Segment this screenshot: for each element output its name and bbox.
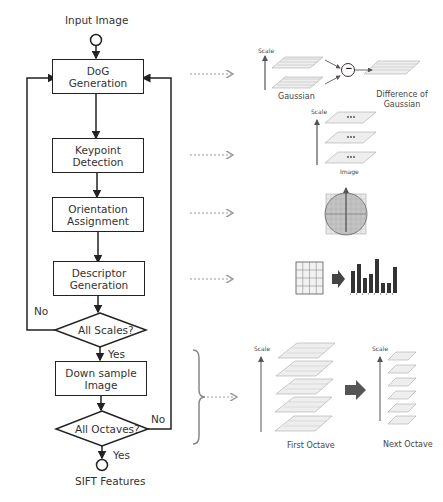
decision-all-octaves: All Octaves?	[75, 423, 140, 435]
step-down-sample-image: Down sample Image	[55, 361, 147, 396]
step-dog-generation: DoG Generation	[52, 59, 144, 94]
first-octave-scale-label: Scale	[254, 345, 270, 352]
gaussian-label: Gaussian	[278, 92, 315, 101]
step-line1: Keypoint	[75, 144, 121, 156]
step-line1: DoG	[87, 65, 110, 77]
end-label: SIFT Features	[75, 475, 146, 487]
decision-all-scales-no: No	[34, 305, 48, 317]
dog-result-line2: Gaussian	[372, 100, 432, 110]
step-orientation-assignment: Orientation Assignment	[52, 197, 144, 232]
decision-all-octaves-yes: Yes	[113, 449, 130, 461]
step-line2: Generation	[69, 77, 128, 89]
step-line2: Generation	[70, 279, 129, 291]
step-line1: Descriptor	[72, 267, 127, 279]
next-octave-label: Next Octave	[383, 440, 433, 449]
decision-all-scales: All Scales?	[78, 324, 134, 336]
decision-all-octaves-no: No	[151, 413, 165, 425]
decision-all-scales-yes: Yes	[108, 348, 125, 360]
keypoint-scale-label: Scale	[311, 108, 327, 115]
keypoint-image-label: Image	[340, 168, 359, 175]
step-line2: Image	[85, 379, 118, 391]
first-octave-label: First Octave	[287, 441, 335, 450]
step-keypoint-detection: Keypoint Detection	[52, 138, 144, 173]
dog-result-line1: Difference of	[372, 90, 432, 100]
step-descriptor-generation: Descriptor Generation	[53, 261, 145, 296]
dog-scale-label: Scale	[258, 47, 274, 54]
step-line2: Assignment	[67, 215, 129, 227]
difference-of-gaussian-label: Difference of Gaussian	[372, 90, 432, 110]
start-label: Input Image	[65, 14, 128, 26]
histogram-bars	[351, 259, 397, 293]
next-octave-scale-label: Scale	[372, 345, 388, 352]
minus-operator-icon: −	[345, 63, 353, 73]
step-line1: Orientation	[68, 203, 127, 215]
step-line2: Detection	[72, 156, 123, 168]
step-line1: Down sample	[65, 367, 136, 379]
